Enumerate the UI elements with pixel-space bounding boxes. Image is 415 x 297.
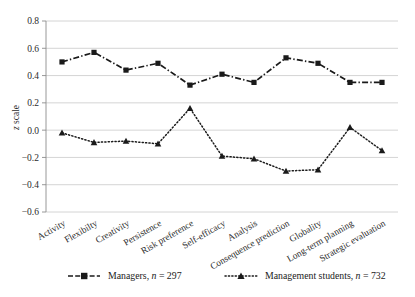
- y-axis-title: z scale: [11, 105, 21, 131]
- y-axis-tick-label: 0.6: [27, 44, 39, 54]
- y-axis-tick-label: 0.0: [27, 126, 39, 136]
- legend-label: Management students, n = 732: [265, 270, 386, 281]
- y-axis-tick-label: −0.2: [22, 153, 39, 163]
- managers-point: [315, 61, 320, 66]
- y-axis-tick-label: 0.8: [27, 16, 39, 26]
- y-axis-tick-marks: [42, 21, 46, 212]
- legend-label: Managers, n = 297: [108, 270, 182, 281]
- line-chart: 0.80.60.40.20.0−0.2−0.4−0.6 z scale Acti…: [0, 0, 415, 297]
- managers-point: [123, 68, 128, 73]
- managers-point: [347, 80, 352, 85]
- chart-container: 0.80.60.40.20.0−0.2−0.4−0.6 z scale Acti…: [0, 0, 415, 297]
- managers-point: [91, 50, 96, 55]
- svg-text:z scale: z scale: [11, 105, 21, 131]
- legend-item-management-students: Management students, n = 732: [225, 270, 386, 281]
- plot-area-background: [46, 21, 398, 212]
- chart-legend: Managers, n = 297Management students, n …: [68, 270, 386, 281]
- y-axis-tick-label: 0.4: [27, 71, 39, 81]
- y-axis-tick-label: 0.2: [27, 98, 39, 108]
- managers-point: [251, 80, 256, 85]
- y-axis-tick-label: −0.6: [22, 207, 39, 217]
- x-axis-tick-label: Activity: [36, 218, 68, 242]
- managers-point: [219, 72, 224, 77]
- managers-point: [59, 59, 64, 64]
- managers-point: [283, 55, 288, 60]
- legend-marker-sample: [81, 273, 87, 279]
- x-axis-tick-label: Flexibilty: [63, 218, 100, 245]
- y-axis-tick-labels: 0.80.60.40.20.0−0.2−0.4−0.6: [22, 16, 39, 217]
- y-axis-tick-label: −0.4: [22, 180, 39, 190]
- x-axis-tick-labels: ActivityFlexibiltyCreativityPersistenceR…: [36, 218, 388, 272]
- managers-point: [379, 80, 384, 85]
- managers-point: [155, 61, 160, 66]
- legend-item-managers: Managers, n = 297: [68, 270, 182, 281]
- managers-point: [187, 83, 192, 88]
